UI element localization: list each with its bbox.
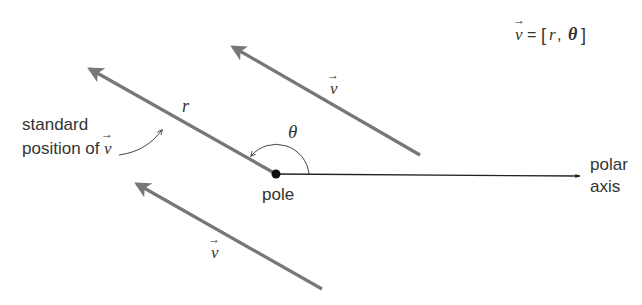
pole-label: pole — [262, 185, 294, 204]
equation-r: r — [549, 25, 556, 44]
theta-angle-arc — [251, 144, 309, 174]
vector-lower-arrow: → — [208, 232, 220, 246]
equation-vector-symbol: v — [515, 25, 523, 44]
standard-position-label-line2: position of — [22, 139, 100, 158]
equation-theta: θ — [568, 24, 578, 44]
equation-comma: , — [557, 26, 561, 43]
vector-upper-arrow: → — [327, 68, 339, 82]
translated-vector-upper — [233, 47, 420, 155]
equation-close-bracket: ] — [581, 25, 586, 45]
translated-vector-lower — [137, 184, 322, 289]
standard-position-vector — [90, 69, 276, 174]
pole-point — [272, 170, 281, 179]
polar-axis-label-line2: axis — [590, 177, 620, 196]
equation-open-bracket: [ — [541, 25, 546, 45]
polar-form-equation: → v = [ r , θ ] — [513, 13, 586, 45]
theta-label: θ — [288, 121, 297, 142]
polar-vector-diagram: standard position of v → r θ pole polar … — [0, 0, 642, 305]
polar-axis-label-line1: polar — [590, 155, 628, 174]
standard-position-leader — [119, 130, 162, 155]
standard-position-vector-symbol: v — [104, 139, 112, 158]
standard-position-vector-arrow: → — [101, 127, 113, 141]
standard-position-label-line1: standard — [22, 115, 88, 134]
equation-equals: = — [527, 26, 536, 43]
polar-axis-line — [276, 174, 580, 176]
magnitude-r-label: r — [182, 96, 190, 116]
